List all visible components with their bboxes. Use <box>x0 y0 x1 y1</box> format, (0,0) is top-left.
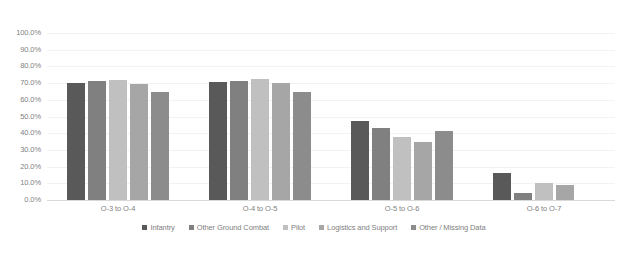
legend-item[interactable]: Other / Missing Data <box>411 224 485 232</box>
legend-item[interactable]: Logistics and Support <box>319 224 397 232</box>
bar[interactable] <box>272 83 290 200</box>
bar-group <box>331 33 473 200</box>
y-axis-tick-label: 20.0% <box>20 163 41 171</box>
y-axis-tick-label: 100.0% <box>16 29 41 37</box>
legend-item-label: Pilot <box>291 224 305 232</box>
x-axis-tick-label: O-3 to O-4 <box>47 202 189 218</box>
legend-swatch-icon <box>319 225 324 230</box>
bar-group <box>189 33 331 200</box>
y-axis-tick-label: 0.0% <box>24 196 41 204</box>
bar[interactable] <box>435 131 453 200</box>
bar-group-bars <box>473 33 615 200</box>
bar-group-bars <box>331 33 473 200</box>
legend-item-label: Infantry <box>150 224 174 232</box>
legend-item-label: Other / Missing Data <box>419 224 485 232</box>
bar[interactable] <box>230 81 248 200</box>
plot-area <box>47 33 615 200</box>
x-axis-tick-label: O-5 to O-6 <box>331 202 473 218</box>
bar[interactable] <box>556 185 574 200</box>
bar[interactable] <box>514 193 532 200</box>
bar[interactable] <box>535 183 553 200</box>
bar-groups <box>47 33 615 200</box>
bar[interactable] <box>414 142 432 200</box>
legend-swatch-icon <box>142 225 147 230</box>
bar[interactable] <box>151 92 169 200</box>
y-axis-tick-label: 70.0% <box>20 79 41 87</box>
bar[interactable] <box>351 121 369 200</box>
bar[interactable] <box>251 79 269 200</box>
y-axis-tick-label: 40.0% <box>20 129 41 137</box>
chart-title <box>0 0 628 2</box>
chart-container: 100.0%90.0%80.0%70.0%60.0%50.0%40.0%30.0… <box>0 0 628 255</box>
bar-group <box>473 33 615 200</box>
bar[interactable] <box>67 83 85 200</box>
x-axis: O-3 to O-4O-4 to O-5O-5 to O-6O-6 to O-7 <box>47 202 615 218</box>
bar[interactable] <box>130 84 148 200</box>
bar[interactable] <box>493 173 511 200</box>
y-axis-tick-label: 80.0% <box>20 63 41 71</box>
y-axis-tick-label: 30.0% <box>20 146 41 154</box>
bar-group <box>47 33 189 200</box>
legend-item-label: Logistics and Support <box>327 224 397 232</box>
y-axis-tick-label: 10.0% <box>20 180 41 188</box>
y-axis-tick-label: 60.0% <box>20 96 41 104</box>
legend-item-label: Other Ground Combat <box>197 224 269 232</box>
bar[interactable] <box>109 80 127 200</box>
bar[interactable] <box>209 82 227 200</box>
x-axis-tick-label: O-4 to O-5 <box>189 202 331 218</box>
legend-swatch-icon <box>189 225 194 230</box>
x-axis-tick-label: O-6 to O-7 <box>473 202 615 218</box>
legend-item[interactable]: Infantry <box>142 224 174 232</box>
bar[interactable] <box>88 81 106 200</box>
y-axis: 100.0%90.0%80.0%70.0%60.0%50.0%40.0%30.0… <box>0 33 44 200</box>
legend-swatch-icon <box>411 225 416 230</box>
gridline <box>47 200 615 201</box>
legend-item[interactable]: Other Ground Combat <box>189 224 269 232</box>
legend-item[interactable]: Pilot <box>283 224 305 232</box>
bar[interactable] <box>293 92 311 200</box>
y-axis-tick-label: 50.0% <box>20 113 41 121</box>
chart-legend: InfantryOther Ground CombatPilotLogistic… <box>0 224 628 232</box>
legend-swatch-icon <box>283 225 288 230</box>
bar[interactable] <box>372 128 390 200</box>
bar-group-bars <box>189 33 331 200</box>
bar[interactable] <box>393 137 411 200</box>
bar-group-bars <box>47 33 189 200</box>
y-axis-tick-label: 90.0% <box>20 46 41 54</box>
